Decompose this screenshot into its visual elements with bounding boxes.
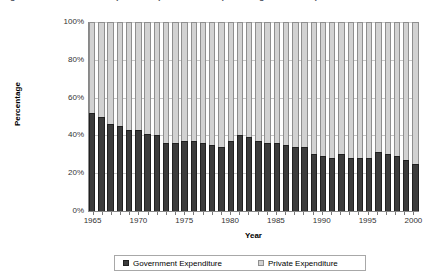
x-tick-mark xyxy=(258,212,259,215)
bar-segment-private xyxy=(394,22,400,156)
bar-column[interactable] xyxy=(311,22,317,211)
bar-segment-government xyxy=(107,124,113,211)
x-tick-mark xyxy=(193,212,194,215)
bar-column[interactable] xyxy=(246,22,252,211)
bar-column[interactable] xyxy=(209,22,215,211)
bar-column[interactable] xyxy=(274,22,280,211)
bar-segment-government xyxy=(394,156,400,211)
x-tick-mark xyxy=(285,212,286,215)
x-tick-mark xyxy=(413,212,414,215)
bar-segment-private xyxy=(283,22,289,145)
bar-segment-private xyxy=(301,22,307,147)
y-axis-title: Percentage xyxy=(13,64,25,144)
bar-segment-government xyxy=(144,134,150,211)
bar-segment-government xyxy=(209,145,215,211)
bar-segment-government xyxy=(357,158,363,211)
bar-segment-private xyxy=(209,22,215,145)
x-tick-mark xyxy=(303,212,304,215)
x-tick-label: 1990 xyxy=(302,216,342,225)
bar-segment-government xyxy=(191,141,197,211)
bar-column[interactable] xyxy=(144,22,150,211)
y-tick-label: 20% xyxy=(52,168,84,178)
legend-item[interactable]: Government Expenditure xyxy=(123,259,222,268)
legend-item[interactable]: Private Expenditure xyxy=(258,259,338,268)
bar-segment-government xyxy=(385,154,391,211)
bar-segment-government xyxy=(200,143,206,211)
bar-column[interactable] xyxy=(301,22,307,211)
bar-column[interactable] xyxy=(172,22,178,211)
bar-column[interactable] xyxy=(283,22,289,211)
bar-column[interactable] xyxy=(89,22,95,211)
bar-segment-government xyxy=(329,158,335,211)
y-axis-ticks: 0%20%40%60%80%100% xyxy=(48,0,84,280)
y-tick-label: 40% xyxy=(52,130,84,140)
x-tick-mark xyxy=(358,212,359,215)
bar-segment-private xyxy=(311,22,317,154)
bar-segment-private xyxy=(264,22,270,143)
x-tick-mark xyxy=(166,212,167,215)
bar-segment-private xyxy=(107,22,113,124)
x-tick-label: 1970 xyxy=(118,216,158,225)
x-axis-title: Year xyxy=(88,231,419,240)
bar-column[interactable] xyxy=(403,22,409,211)
bar-column[interactable] xyxy=(329,22,335,211)
bar-column[interactable] xyxy=(255,22,261,211)
bar-column[interactable] xyxy=(357,22,363,211)
bar-column[interactable] xyxy=(135,22,141,211)
bar-segment-private xyxy=(98,22,104,117)
bar-segment-private xyxy=(348,22,354,158)
bar-column[interactable] xyxy=(385,22,391,211)
bar-column[interactable] xyxy=(228,22,234,211)
bar-column[interactable] xyxy=(237,22,243,211)
bar-column[interactable] xyxy=(338,22,344,211)
bar-column[interactable] xyxy=(412,22,418,211)
bar-column[interactable] xyxy=(126,22,132,211)
bar-column[interactable] xyxy=(163,22,169,211)
bar-segment-private xyxy=(403,22,409,160)
x-tick-mark xyxy=(294,212,295,215)
bar-column[interactable] xyxy=(107,22,113,211)
bar-segment-government xyxy=(246,137,252,211)
x-tick-label: 1965 xyxy=(73,216,113,225)
bar-column[interactable] xyxy=(191,22,197,211)
chart-legend: Government ExpenditurePrivate Expenditur… xyxy=(114,255,366,271)
x-tick-mark xyxy=(221,212,222,215)
bar-column[interactable] xyxy=(181,22,187,211)
bar-column[interactable] xyxy=(366,22,372,211)
bar-segment-private xyxy=(375,22,381,152)
x-tick-mark xyxy=(175,212,176,215)
bar-segment-government xyxy=(366,158,372,211)
y-tick-label: 80% xyxy=(52,55,84,65)
x-tick-mark xyxy=(230,212,231,215)
x-tick-label: 1975 xyxy=(164,216,204,225)
bar-segment-government xyxy=(338,154,344,211)
bar-column[interactable] xyxy=(154,22,160,211)
bar-segment-government xyxy=(237,135,243,211)
bar-segment-private xyxy=(181,22,187,141)
bar-column[interactable] xyxy=(200,22,206,211)
legend-label: Private Expenditure xyxy=(268,259,338,268)
bar-column[interactable] xyxy=(218,22,224,211)
x-tick-mark xyxy=(395,212,396,215)
bar-series-group xyxy=(89,22,419,211)
bar-segment-government xyxy=(117,126,123,211)
bar-column[interactable] xyxy=(292,22,298,211)
bar-column[interactable] xyxy=(375,22,381,211)
x-tick-mark xyxy=(129,212,130,215)
bar-segment-private xyxy=(117,22,123,126)
bar-segment-private xyxy=(126,22,132,130)
y-tick-label: 0% xyxy=(52,206,84,216)
bar-segment-government xyxy=(181,141,187,211)
bar-segment-government xyxy=(403,160,409,211)
bar-segment-government xyxy=(154,135,160,211)
bar-segment-government xyxy=(126,130,132,211)
bar-column[interactable] xyxy=(264,22,270,211)
bar-column[interactable] xyxy=(394,22,400,211)
legend-swatch-icon xyxy=(123,260,129,266)
x-tick-mark xyxy=(267,212,268,215)
bar-column[interactable] xyxy=(98,22,104,211)
bar-column[interactable] xyxy=(348,22,354,211)
bar-column[interactable] xyxy=(117,22,123,211)
bar-column[interactable] xyxy=(320,22,326,211)
x-tick-mark xyxy=(111,212,112,215)
